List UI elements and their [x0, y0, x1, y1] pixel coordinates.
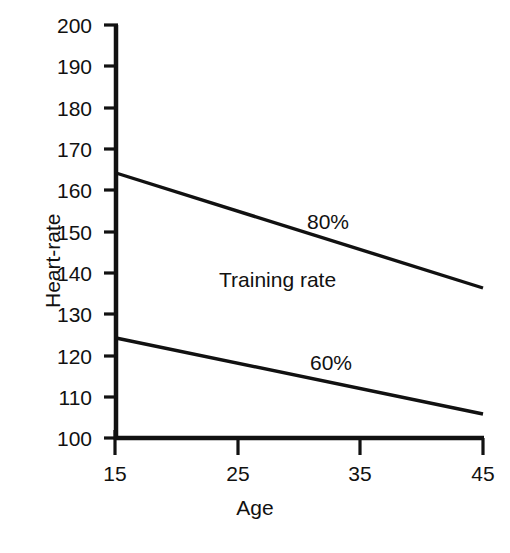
y-axis-title: Heart-rate: [42, 213, 63, 308]
x-tick-label-15: 15: [92, 463, 138, 484]
y-tick-label-190: 190: [30, 56, 92, 77]
x-axis-ticks: [115, 430, 483, 455]
y-tick-label-170: 170: [30, 139, 92, 160]
series-label-80: 80%: [307, 211, 349, 232]
series-label-60: 60%: [310, 352, 352, 373]
x-tick-label-45: 45: [460, 463, 506, 484]
y-tick-label-100: 100: [30, 428, 92, 449]
y-tick-label-200: 200: [30, 15, 92, 36]
x-tick-label-25: 25: [215, 463, 261, 484]
y-tick-label-180: 180: [30, 98, 92, 119]
y-tick-label-110: 110: [30, 387, 92, 408]
heart-rate-training-chart: 200 190 180 170 160 150 140 130 120 110 …: [0, 0, 510, 553]
x-axis-title: Age: [0, 497, 510, 518]
y-tick-label-160: 160: [30, 180, 92, 201]
training-rate-annotation: Training rate: [219, 269, 336, 290]
y-tick-label-120: 120: [30, 346, 92, 367]
series-line-60: [116, 338, 483, 414]
x-tick-label-35: 35: [337, 463, 383, 484]
